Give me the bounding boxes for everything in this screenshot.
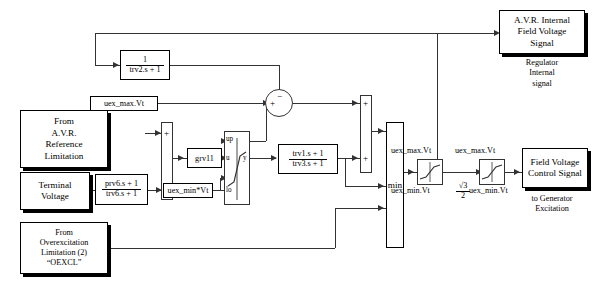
wire-feedback-right-riser [437, 33, 438, 172]
arrow-sat-to-trv1 [271, 155, 277, 161]
sat1-min-label: uex_min.Vt [391, 186, 430, 195]
sat-port-lo-label: lo [226, 186, 232, 194]
sum-circle-plus-sign: + [270, 99, 275, 108]
sat-port-u-label: u [226, 154, 230, 162]
bar2-plus-top-sign: + [363, 99, 368, 108]
trv6-denominator: trv6.s + 1 [102, 189, 141, 199]
source-avr-reference-limitation[interactable]: From A.V.R. Reference Limitation [20, 110, 108, 168]
source-overexcitation-limitation[interactable]: From Overexcitation Limitation (2) “OEXC… [20, 222, 108, 274]
constant-uex-max-vt-top[interactable]: uex_max.Vt [90, 96, 158, 111]
bar1-plus-sign: + [164, 129, 169, 138]
wire-uexmax-to-sum [158, 103, 266, 104]
prv6-numerator: prv6.s + 1 [102, 180, 141, 189]
wire-feedback-top-bus [95, 33, 438, 34]
sat-port-y-label: y [243, 154, 247, 162]
trv2-numerator: 1 [126, 56, 163, 65]
arrow-oexcl-to-min [378, 205, 384, 211]
wire-uexmin-to-lo [213, 190, 224, 191]
trv3-denominator: trv3.s + 1 [289, 159, 326, 169]
arrow-trv1-branch-to-min [378, 183, 384, 189]
arrow-bar2-to-min [378, 128, 384, 134]
wire-trv1-branch-down [345, 158, 346, 186]
wire-sumout-to-bar2-top [292, 103, 360, 104]
wire-oexcl-riser [335, 208, 336, 248]
arrow-bar1-to-grv11 [178, 155, 184, 161]
wire-oexcl-bottom-bus [93, 248, 335, 249]
sink-field-voltage-control-signal[interactable]: Field Voltage Control Signal [522, 148, 588, 188]
caption-regulator-internal-signal: Regulator Internal signal [499, 58, 585, 89]
bar2-plus-bottom-sign: + [363, 154, 368, 163]
saturation-limiter-2[interactable] [479, 159, 505, 185]
sat1-max-label: uex_max.Vt [391, 146, 431, 155]
caption-to-generator-excitation: to Generator Excitation [510, 194, 594, 215]
sat2-min-label: uex_min.Vt [469, 186, 508, 195]
transfer-function-prv6-trv6[interactable]: prv6.s + 1 trv6.s + 1 [95, 174, 148, 205]
min-block[interactable]: min [386, 122, 404, 248]
trv2-denominator: trv2.s + 1 [126, 65, 163, 75]
source-terminal-voltage[interactable]: Terminal Voltage [20, 172, 90, 210]
sat2-max-label: uex_max.Vt [455, 146, 495, 155]
wire-to-avr-internal [437, 33, 496, 34]
saturation-limiter-1[interactable] [417, 159, 443, 185]
arrow-min-to-sat1 [408, 169, 414, 175]
wire-feedback-left-riser [95, 33, 96, 65]
sink-avr-internal-field-voltage-signal[interactable]: A.V.R. Internal Field Voltage Signal [499, 10, 585, 54]
gain-grv11[interactable]: grv11 [187, 148, 222, 168]
sat-port-up-label: up [226, 135, 233, 143]
arrow-trv1-to-bar2 [352, 155, 358, 161]
sum-circle-minus-sign: − [277, 92, 282, 101]
transfer-function-trv1-trv3[interactable]: trv1.s + 1 trv3.s + 1 [278, 144, 338, 174]
trv1-numerator: trv1.s + 1 [289, 150, 326, 159]
arrow-sumout-to-bar2 [352, 100, 358, 106]
wire-trv2-out [170, 65, 279, 66]
transfer-function-trv2[interactable]: 1 trv2.s + 1 [120, 50, 170, 80]
block-diagram-canvas: 1 trv2.s + 1 uex_max.Vt + − From A.V.R. … [0, 0, 594, 297]
arrow-into-trv2 [113, 62, 119, 68]
constant-uex-min-vt[interactable]: uex_min*Vt [163, 183, 213, 198]
arrow-sat2-to-field-voltage [514, 169, 520, 175]
